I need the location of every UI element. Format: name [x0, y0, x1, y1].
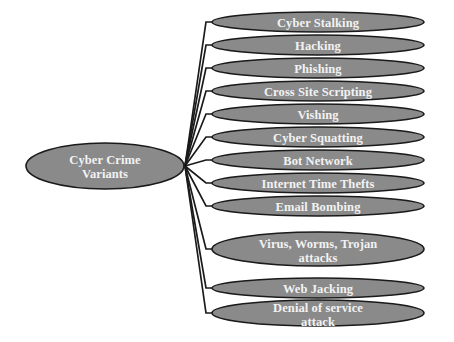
leaf-node-phishing[interactable]: Phishing: [212, 58, 424, 78]
leaf-label-hacking: Hacking: [295, 39, 341, 53]
leaf-label-cyber-squatting: Cyber Squatting: [273, 131, 363, 145]
connector-virus-worms-trojan: [185, 166, 212, 249]
leaf-label-bot-network: Bot Network: [283, 154, 353, 168]
root-node-label-line1: Cyber Crime: [69, 153, 141, 167]
leaf-label-cross-site-scripting: Cross Site Scripting: [264, 85, 373, 99]
leaf-label-cyber-stalking: Cyber Stalking: [277, 16, 360, 30]
leaf-label-vishing: Vishing: [297, 108, 339, 122]
leaf-node-hacking[interactable]: Hacking: [212, 35, 424, 55]
leaf-label-web-jacking: Web Jacking: [283, 282, 354, 296]
leaf-label2-virus-worms-trojan: attacks: [299, 251, 338, 265]
leaf-label-denial-of-service: Denial of service: [273, 301, 363, 315]
leaf-label-phishing: Phishing: [294, 62, 342, 76]
leaf-label-virus-worms-trojan: Virus, Worms, Trojan: [259, 237, 378, 251]
leaf-node-virus-worms-trojan[interactable]: Virus, Worms, Trojanattacks: [212, 232, 424, 266]
leaf-node-cross-site-scripting[interactable]: Cross Site Scripting: [212, 81, 424, 101]
leaf-label2-denial-of-service: attack: [301, 315, 335, 329]
leaf-label-email-bombing: Email Bombing: [276, 200, 362, 214]
leaf-node-vishing[interactable]: Vishing: [212, 104, 424, 124]
leaf-node-cyber-squatting[interactable]: Cyber Squatting: [212, 127, 424, 147]
leaf-label-internet-time-thefts: Internet Time Thefts: [261, 177, 374, 191]
leaf-nodes-group: Cyber StalkingHackingPhishingCross Site …: [212, 12, 424, 329]
leaf-node-denial-of-service[interactable]: Denial of serviceattack: [212, 300, 424, 329]
leaf-node-web-jacking[interactable]: Web Jacking: [212, 278, 424, 298]
leaf-node-bot-network[interactable]: Bot Network: [212, 150, 424, 170]
leaf-node-email-bombing[interactable]: Email Bombing: [212, 196, 424, 216]
leaf-node-cyber-stalking[interactable]: Cyber Stalking: [212, 12, 424, 32]
connector-lines-group: [185, 22, 212, 313]
root-node-label-line2: Variants: [82, 167, 128, 181]
diagram-canvas: Cyber StalkingHackingPhishingCross Site …: [0, 0, 454, 342]
root-node-group[interactable]: Cyber Crime Variants: [26, 143, 184, 189]
leaf-node-internet-time-thefts[interactable]: Internet Time Thefts: [212, 173, 424, 193]
